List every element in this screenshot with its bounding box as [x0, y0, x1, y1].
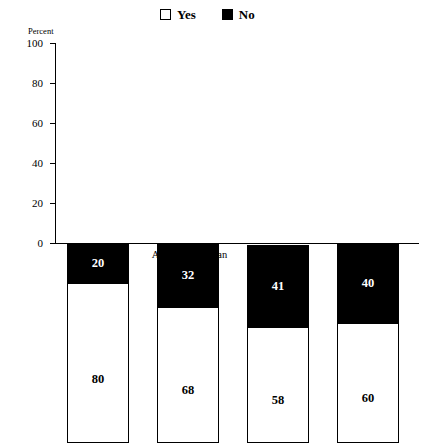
x-tick-label-asian: Asian: [312, 250, 427, 261]
y-tick-label-100: 100: [27, 37, 44, 49]
y-tick-0: 0: [50, 243, 55, 244]
bar-value-no-asian: 40: [362, 277, 375, 290]
y-tick-100: 100: [50, 43, 55, 44]
bar-value-no-hispanic: 41: [272, 280, 285, 293]
chart-legend: Yes No: [160, 8, 255, 21]
white-square-swatch-icon: [160, 9, 171, 20]
legend-label-yes: Yes: [177, 8, 196, 21]
bar-yes-asian: [337, 323, 399, 443]
y-tick-20: 20: [50, 203, 55, 204]
y-axis-title: Percent: [28, 27, 54, 36]
y-tick-label-60: 60: [32, 117, 43, 129]
bar-value-yes-white: 80: [92, 372, 105, 386]
plot-area: 100 80 60 40 20 0 20 80 32: [55, 43, 419, 243]
bar-value-yes-hispanic: 58: [272, 393, 285, 407]
black-square-swatch-icon: [222, 9, 233, 20]
bar-value-yes-hispanic-wrap: 58: [247, 390, 309, 408]
y-tick-60: 60: [50, 123, 55, 124]
y-tick-label-40: 40: [32, 157, 43, 169]
y-tick-label-0: 0: [38, 237, 44, 249]
bar-value-yes-asian-wrap: 60: [337, 388, 399, 406]
bar-value-yes-white-wrap: 80: [67, 369, 129, 387]
y-tick-label-80: 80: [32, 77, 43, 89]
y-tick-40: 40: [50, 163, 55, 164]
bar-yes-white: [67, 283, 129, 443]
bar-value-yes-asian: 60: [362, 391, 375, 405]
bar-value-yes-african-american: 68: [182, 383, 195, 397]
bar-value-no-african-american: 32: [182, 269, 195, 282]
y-tick-label-20: 20: [32, 197, 43, 209]
y-tick-80: 80: [50, 83, 55, 84]
legend-label-no: No: [239, 8, 255, 21]
legend-item-yes: Yes: [160, 8, 196, 21]
bar-yes-african-american: [157, 307, 219, 443]
bar-value-yes-african-american-wrap: 68: [157, 380, 219, 398]
bar-yes-hispanic: [247, 327, 309, 443]
y-axis-line: [55, 43, 56, 243]
legend-item-no: No: [222, 8, 255, 21]
